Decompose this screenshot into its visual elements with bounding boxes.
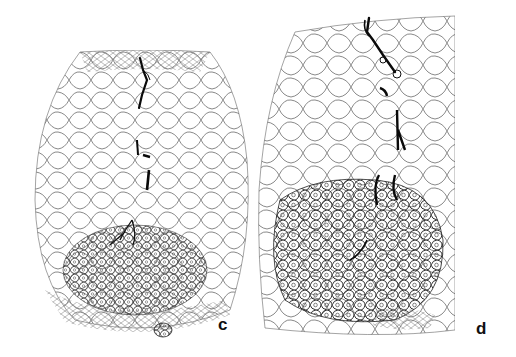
panel-label-d: d bbox=[476, 320, 486, 337]
cell-section-drawing-c bbox=[25, 50, 265, 340]
figure-panel-d bbox=[255, 10, 455, 335]
cell-section-drawing-d bbox=[255, 10, 455, 335]
panel-label-c: c bbox=[218, 316, 227, 333]
figure-panel-c bbox=[25, 50, 265, 340]
